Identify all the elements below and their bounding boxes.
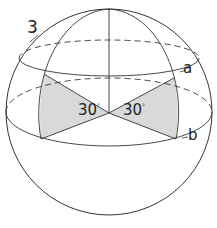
degree-symbol-left: ° bbox=[97, 102, 100, 109]
angle-label-right: 30° bbox=[123, 103, 145, 118]
figure-number-label: 3 bbox=[27, 19, 38, 36]
angle-value-left: 30 bbox=[78, 101, 97, 119]
degree-symbol-right: ° bbox=[142, 102, 145, 109]
angle-value-right: 30 bbox=[123, 101, 142, 119]
latitude-b-front bbox=[6, 112, 212, 146]
latitude-a-label: a bbox=[183, 61, 192, 76]
angle-label-left: 30° bbox=[78, 103, 100, 118]
latitude-b-label: b bbox=[188, 128, 198, 143]
